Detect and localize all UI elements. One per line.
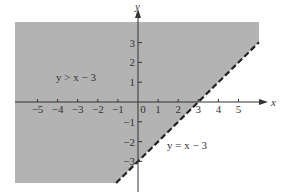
x-tick-label: −3 <box>72 103 84 115</box>
x-tick-label: −4 <box>52 103 64 115</box>
x-tick-label: −2 <box>92 103 104 115</box>
x-tick-label: 4 <box>216 103 222 115</box>
y-tick-label: −2 <box>123 136 135 148</box>
x-axis-label: x <box>270 96 276 108</box>
x-tick-label: 5 <box>236 103 242 115</box>
y-tick-label: 3 <box>130 37 136 49</box>
x-tick-label: −1 <box>112 103 124 115</box>
y-tick-label: 2 <box>130 56 136 68</box>
x-tick-label: 2 <box>175 103 181 115</box>
y-tick-label: 1 <box>130 76 136 88</box>
y-tick-label: −1 <box>123 116 135 128</box>
x-axis-arrow-icon <box>259 99 268 105</box>
x-tick-label: 0 <box>140 103 146 115</box>
x-tick-label: 1 <box>155 103 161 115</box>
line-label: y = x − 3 <box>167 139 207 151</box>
region-label: y > x − 3 <box>56 71 96 83</box>
y-tick-label: −3 <box>123 155 135 167</box>
y-axis-label: y <box>134 0 140 12</box>
plot-canvas: −5−4−3−2−1012345 321−1−2−3 x y y > x − 3… <box>0 0 282 196</box>
inequality-graph: −5−4−3−2−1012345 321−1−2−3 x y y > x − 3… <box>0 0 282 196</box>
x-tick-label: 3 <box>196 103 202 115</box>
x-tick-label: −5 <box>32 103 44 115</box>
